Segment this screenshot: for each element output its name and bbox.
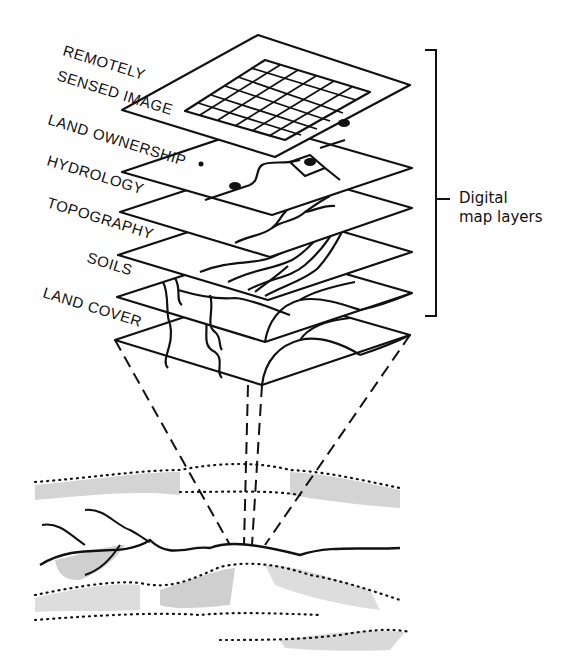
bracket-label-line2: map layers	[459, 208, 543, 226]
layer-remotely-sensed-image	[122, 35, 410, 157]
map-layers-diagram: REMOTELY SENSED IMAGE LAND OWNERSHIP HYD…	[0, 0, 570, 670]
ground-landscape	[35, 464, 410, 651]
bracket-label: Digital map layers	[459, 189, 543, 226]
label-land-cover: LAND COVER	[41, 284, 144, 330]
layers-bracket	[425, 50, 450, 316]
bracket-label-line1: Digital	[459, 189, 508, 207]
